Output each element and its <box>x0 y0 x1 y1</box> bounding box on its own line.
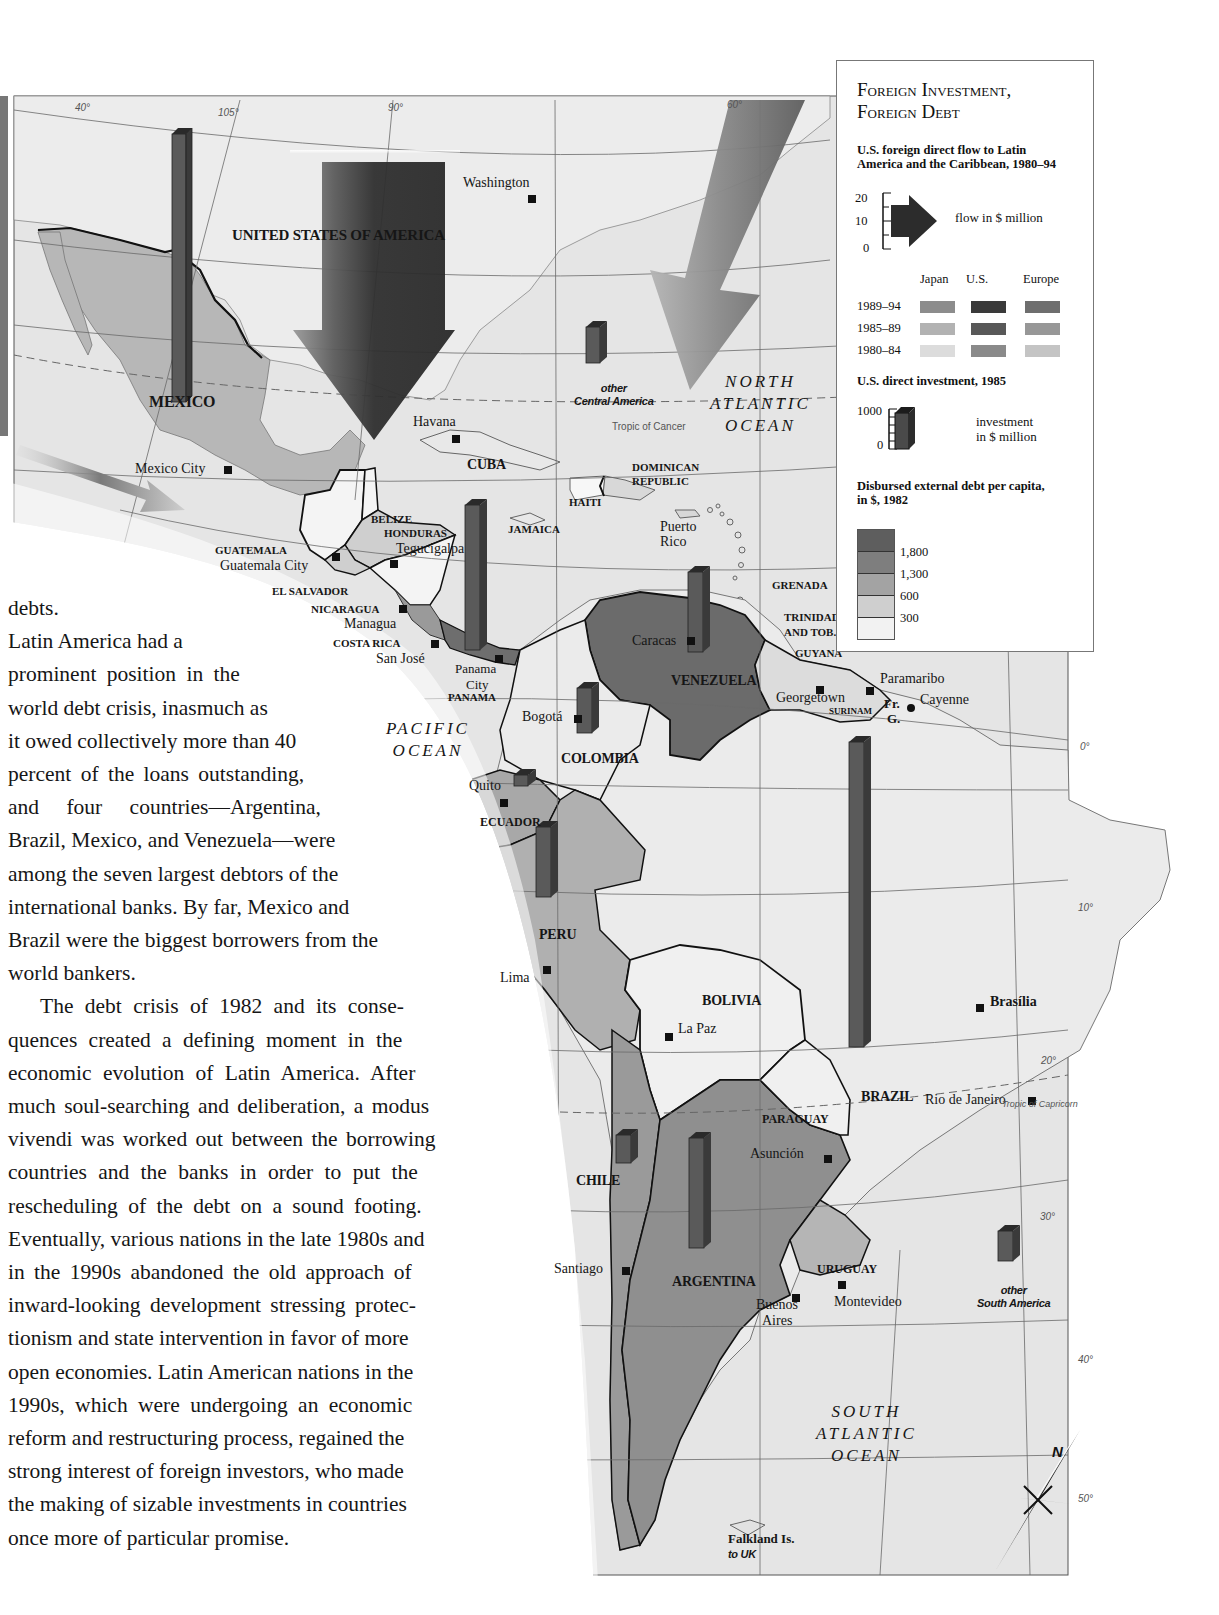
investment-unit-note: investment in $ million <box>976 415 1037 445</box>
lon-label: 40° <box>75 103 90 113</box>
country-argentina: ARGENTINA <box>672 1275 756 1289</box>
falkland-islands-note: to UK <box>728 1548 756 1561</box>
text-line: The debt crisis of 1982 and its conse- <box>8 990 436 1023</box>
map-legend: Foreign Investment, Foreign Debt U.S. fo… <box>836 60 1094 652</box>
capital-marker <box>500 799 508 807</box>
text-line: Latin America had a <box>8 625 436 658</box>
text-line: it owed collectively more than 40 <box>8 725 436 758</box>
flow-tick: 0 <box>863 241 869 256</box>
bar-argentina <box>689 1132 711 1248</box>
swatch <box>971 345 1006 357</box>
ocean-south-atlantic: SOUTH ATLANTIC OCEAN <box>816 1401 917 1467</box>
text-line: in the 1990s abandoned the old approach … <box>8 1256 436 1289</box>
capital-marker <box>332 553 340 561</box>
city-guatemala-city: Guatemala City <box>220 559 308 573</box>
city-caracas: Caracas <box>632 634 676 648</box>
debt-class-label: 600 <box>900 589 919 604</box>
city-georgetown: Georgetown <box>776 691 845 705</box>
text-line: inward-looking development stressing pro… <box>8 1289 436 1322</box>
city-lima: Lima <box>500 971 530 985</box>
country-grenada: GRENADA <box>772 580 828 591</box>
country-chile: CHILE <box>576 1174 620 1188</box>
capital-marker <box>622 1267 630 1275</box>
text-line: world bankers. <box>8 957 436 990</box>
country-guatemala: GUATEMALA <box>215 545 287 556</box>
city-brasilia: Brasília <box>990 995 1037 1009</box>
capital-marker <box>665 1033 673 1041</box>
text-line: much soul-searching and deliberation, a … <box>8 1090 436 1123</box>
capital-marker <box>574 715 582 723</box>
lat-label: 20° <box>1041 1056 1056 1066</box>
bar-brazil <box>849 736 871 1047</box>
capital-marker <box>528 195 536 203</box>
legend-flow-heading: U.S. foreign direct flow to Latin Americ… <box>857 143 1056 172</box>
text-line: 1990s, which were undergoing an economic <box>8 1389 436 1422</box>
city-washington: Washington <box>463 176 530 190</box>
text-line: percent of the loans outstanding, <box>8 758 436 791</box>
lon-label: 90° <box>388 103 403 113</box>
country-trinidad-2: AND TOB. <box>784 627 836 638</box>
swatch <box>920 345 955 357</box>
country-fr-guiana: Fr. <box>884 697 900 710</box>
city-quito: Quito <box>469 779 501 793</box>
flow-column-japan: Japan <box>920 272 948 287</box>
flow-tick: 20 <box>855 191 868 206</box>
debt-class-swatch <box>858 552 894 574</box>
bar-colombia <box>577 682 599 733</box>
city-montevideo: Montevideo <box>834 1295 902 1309</box>
country-surinam: SURINAM <box>829 707 872 716</box>
text-line: Brazil were the biggest borrowers from t… <box>8 924 436 957</box>
bar-chile <box>616 1129 638 1163</box>
legend-investment-heading: U.S. direct investment, 1985 <box>857 374 1006 388</box>
flow-column-europe: Europe <box>1023 272 1059 287</box>
country-venezuela: VENEZUELA <box>671 674 756 688</box>
country-ecuador: ECUADOR <box>480 816 541 828</box>
text-line: reform and restructuring process, regain… <box>8 1422 436 1455</box>
capital-marker <box>866 687 874 695</box>
country-usa: UNITED STATES OF AMERICA <box>232 228 445 243</box>
text-line: strong interest of foreign investors, wh… <box>8 1455 436 1488</box>
city-cayenne: Cayenne <box>920 693 969 707</box>
text-line: Eventually, various nations in the late … <box>8 1223 436 1256</box>
debt-scale <box>857 529 895 640</box>
lon-label: 105° <box>218 108 239 118</box>
capital-marker <box>976 1004 984 1012</box>
country-trinidad: TRINIDAD <box>784 612 840 623</box>
label-other-south-america: other South America <box>977 1284 1050 1309</box>
country-panama: PANAMA <box>448 692 496 703</box>
text-line: world debt crisis, inasmuch as <box>8 692 436 725</box>
text-line: international banks. By far, Mexico and <box>8 891 436 924</box>
swatch <box>1025 323 1060 335</box>
lat-label: 50° <box>1078 1494 1093 1504</box>
puerto-rico-land <box>675 510 700 518</box>
debt-class-swatch <box>858 596 894 618</box>
city-puerto-rico: Puerto <box>660 520 697 534</box>
bar-other-south <box>998 1225 1020 1261</box>
country-haiti: HAITI <box>569 497 601 508</box>
city-santiago: Santiago <box>554 1262 603 1276</box>
tropic-of-cancer-label: Tropic of Cancer <box>612 422 686 432</box>
lat-label: 0° <box>1080 742 1090 752</box>
lat-label: 30° <box>1040 1212 1055 1222</box>
country-cuba: CUBA <box>467 458 506 472</box>
flow-unit-note: flow in $ million <box>955 211 1043 226</box>
lon-label: 60° <box>727 100 742 110</box>
swatch <box>971 301 1006 313</box>
tropic-of-capricorn-label: Tropic of Capricorn <box>1002 1100 1078 1109</box>
capital-marker <box>838 1281 846 1289</box>
bar-mexico <box>172 128 192 402</box>
country-dominican-republic-2: REPUBLIC <box>632 476 689 487</box>
city-buenos-aires-2: Aires <box>762 1314 792 1328</box>
legend-debt-heading: Disbursed external debt per capita, in $… <box>857 479 1045 508</box>
country-dominican-republic: DOMINICAN <box>632 462 699 473</box>
country-belize: BELIZE <box>371 514 412 525</box>
bar-peru <box>536 821 558 897</box>
capital-marker <box>687 637 695 645</box>
capital-marker <box>824 1155 832 1163</box>
city-la-paz: La Paz <box>678 1022 716 1036</box>
country-peru: PERU <box>539 928 576 942</box>
body-text: debts. Latin America had a prominent pos… <box>8 592 436 1555</box>
capital-marker <box>907 704 915 712</box>
country-brazil: BRAZIL <box>861 1090 913 1104</box>
city-puerto-rico-2: Rico <box>660 535 686 549</box>
